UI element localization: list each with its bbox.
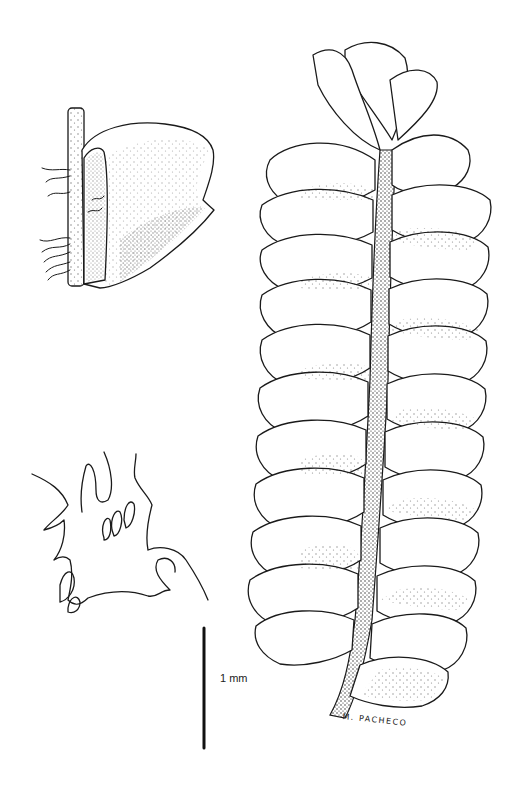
apical-bud-leaves: [313, 42, 437, 150]
leaf-with-stem-drawing: [40, 108, 214, 288]
underleaf-drawing: [32, 452, 208, 613]
shoot-drawing: [248, 42, 491, 718]
illustration-canvas: [0, 0, 517, 787]
left-leaves: [248, 143, 375, 665]
scale-bar-label: 1 mm: [220, 672, 248, 684]
